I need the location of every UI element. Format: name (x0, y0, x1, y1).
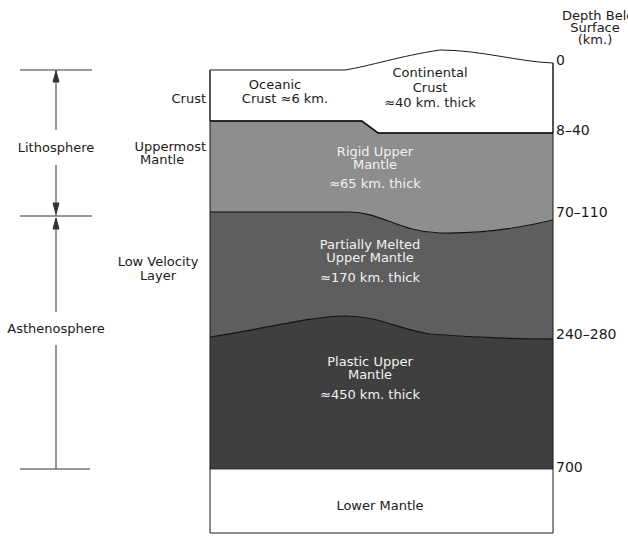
continental-line-3: ≈40 km. thick (370, 95, 490, 110)
plastic-upper-mantle-label: Plastic Upper Mantle ≈450 km. thick (310, 355, 430, 401)
low-velocity-layer-side-label: Low Velocity Layer (110, 255, 206, 283)
depth-tick-0: 0 (556, 53, 565, 67)
rigid-line-3: ≈65 km. thick (320, 177, 430, 190)
oceanic-line-1: Oceanic (230, 78, 340, 92)
continental-crust-label: Continental Crust ≈40 km. thick (370, 65, 490, 110)
continental-line-2: Crust (370, 80, 490, 95)
plastic-line-3: ≈450 km. thick (310, 388, 430, 401)
rigid-upper-mantle-label: Rigid Upper Mantle ≈65 km. thick (320, 145, 430, 190)
low-velocity-line-2: Layer (110, 269, 206, 283)
plastic-line-2: Mantle (310, 368, 430, 381)
low-velocity-line-1: Low Velocity (110, 255, 206, 269)
depth-tick-crust-base: 8–40 (556, 123, 590, 137)
asthenosphere-bracket (20, 216, 92, 469)
continental-line-1: Continental (370, 65, 490, 80)
depth-tick-low-velocity-base: 240–280 (556, 327, 616, 341)
depth-tick-700: 700 (556, 460, 583, 474)
partial-line-3: ≈170 km. thick (300, 271, 440, 284)
partially-melted-label: Partially Melted Upper Mantle ≈170 km. t… (300, 238, 440, 284)
rigid-line-2: Mantle (320, 158, 430, 171)
partial-line-2: Upper Mantle (300, 251, 440, 264)
uppermost-mantle-side-label: Uppermost Mantle (110, 140, 206, 166)
depth-axis-title: Depth Below Surface (km.) (562, 10, 628, 46)
depth-title-line-3: (km.) (562, 34, 628, 46)
oceanic-line-2: Crust ≈6 km. (230, 92, 340, 106)
crust-side-label: Crust (120, 92, 206, 106)
asthenosphere-label: Asthenosphere (0, 322, 112, 336)
depth-tick-lithosphere-base: 70–110 (556, 205, 608, 219)
lithosphere-label: Lithosphere (0, 141, 112, 155)
lower-mantle-label: Lower Mantle (310, 499, 450, 513)
uppermost-line-2: Mantle (110, 153, 206, 166)
oceanic-crust-label: Oceanic Crust ≈6 km. (230, 78, 340, 106)
